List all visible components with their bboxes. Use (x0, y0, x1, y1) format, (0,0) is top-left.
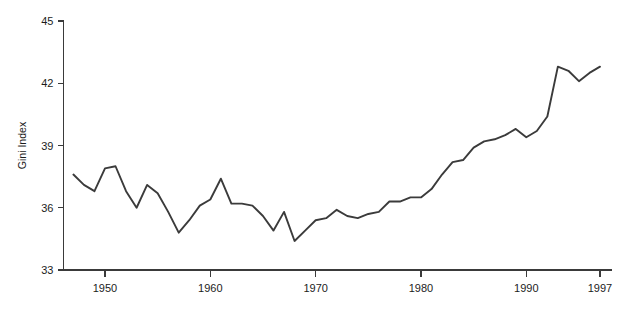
chart-canvas: 3336394245 195019601970198019901997 Gini… (0, 0, 618, 321)
y-axis-ticks (58, 21, 64, 270)
y-tick-label-42: 42 (41, 77, 53, 89)
x-axis: 195019601970198019901997 (64, 270, 613, 294)
y-tick-label-39: 39 (41, 140, 53, 152)
y-axis-label-group: Gini Index (16, 121, 28, 169)
x-tick-label-1990: 1990 (514, 282, 538, 294)
y-tick-label-45: 45 (41, 15, 53, 27)
y-axis-label: Gini Index (16, 121, 28, 169)
y-tick-label-33: 33 (41, 264, 53, 276)
x-axis-ticks (105, 270, 600, 277)
y-tick-label-36: 36 (41, 202, 53, 214)
y-axis: 3336394245 (41, 15, 63, 276)
x-tick-label-1980: 1980 (409, 282, 433, 294)
x-tick-label-1997: 1997 (588, 282, 612, 294)
y-axis-tick-labels: 3336394245 (41, 15, 53, 276)
data-series-group (73, 67, 600, 241)
x-axis-tick-labels: 195019601970198019901997 (93, 282, 612, 294)
gini-index-series-line (73, 67, 600, 241)
gini-index-line-chart: 3336394245 195019601970198019901997 Gini… (0, 0, 618, 321)
x-tick-label-1970: 1970 (303, 282, 327, 294)
x-tick-label-1950: 1950 (93, 282, 117, 294)
x-tick-label-1960: 1960 (198, 282, 222, 294)
